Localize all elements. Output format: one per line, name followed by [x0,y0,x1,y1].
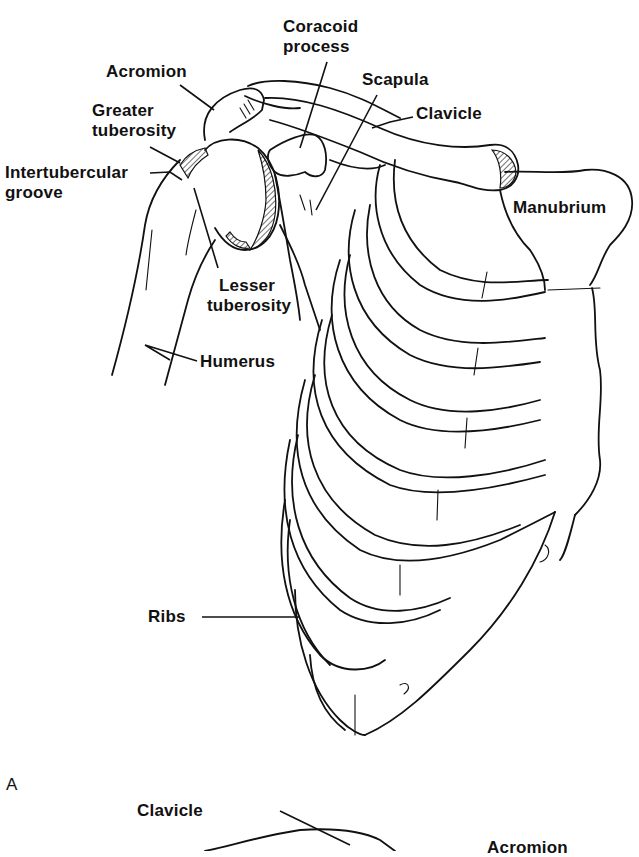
lesser-tuberosity-label: Lesser tuberosity [207,276,291,316]
ribs-label: Ribs [148,607,186,627]
coracoid-process-label-line1: Coracoid [283,17,358,37]
humerus-label: Humerus [200,352,275,372]
panel-b-clavicle-label: Clavicle [137,801,203,821]
panel-b-acromion-label: Acromion [487,838,568,857]
greater-tuberosity-label-line1: Greater [92,101,176,121]
leader-lines [145,62,413,851]
ribs-drawing [281,160,555,735]
clavicle-label: Clavicle [416,104,482,124]
lesser-tuberosity-label-line1: Lesser [207,276,291,296]
acromion-label: Acromion [106,62,187,82]
panel-a-label: A [6,775,17,795]
intertubercular-groove-label-line1: Intertubercular [5,163,128,183]
lesser-tuberosity-label-line2: tuberosity [207,296,291,316]
intertubercular-groove-label: Intertubercular groove [5,163,128,203]
coracoid-process-drawing [268,134,326,176]
greater-tuberosity-label-line2: tuberosity [92,121,176,141]
coracoid-process-label: Coracoid process [283,17,358,57]
coracoid-process-label-line2: process [283,37,358,57]
humeral-head-drawing [180,140,279,250]
manubrium-label: Manubrium [513,198,606,218]
intertubercular-groove-label-line2: groove [5,183,128,203]
scapula-label: Scapula [362,70,429,90]
greater-tuberosity-label: Greater tuberosity [92,101,176,141]
